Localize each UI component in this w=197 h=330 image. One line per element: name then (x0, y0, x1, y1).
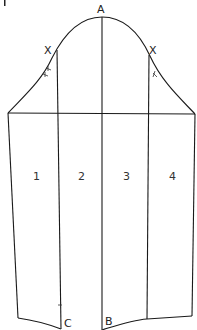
single-notch-right (153, 71, 157, 77)
slash-line-left (57, 50, 61, 329)
slash-line-right (147, 55, 149, 319)
section-label-3: 3 (123, 170, 130, 183)
point-label-C: C (64, 317, 72, 330)
point-label-B: B (105, 315, 113, 328)
right-underarm-seam (192, 114, 195, 316)
point-label-X-right: X (149, 44, 157, 57)
point-label-X-left: X (44, 44, 52, 57)
left-underarm-seam (8, 113, 18, 318)
sleeve-pattern-diagram: A X X C B 1 2 3 4 (0, 0, 197, 330)
point-label-A: A (97, 3, 105, 16)
section-label-2: 2 (78, 170, 85, 183)
figure-marker (4, 0, 6, 6)
section-label-1: 1 (33, 170, 40, 183)
section-label-4: 4 (169, 170, 176, 183)
